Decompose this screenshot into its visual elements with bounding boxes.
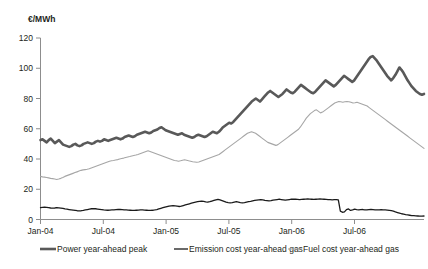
x-tick-label-Jan-04: Jan-04 [28, 226, 54, 236]
y-tick-label-100: 100 [19, 63, 33, 73]
legend-label-2: Fuel cost year-ahead gas [303, 244, 399, 254]
y-tick-label-120: 120 [19, 33, 33, 43]
series-line-power-year-ahead-peak [41, 56, 425, 147]
y-axis-unit-label: €/MWh [28, 14, 55, 24]
y-tick-label-60: 60 [24, 124, 34, 134]
price-chart: €/MWh 020406080100120 Jan-04Jul-04Jan-05… [0, 0, 428, 269]
chart-canvas: €/MWh 020406080100120 Jan-04Jul-04Jan-05… [0, 0, 428, 269]
series-line-emission-cost-year-ahead-gas [41, 199, 425, 216]
series-group [41, 56, 425, 216]
y-tick-label-20: 20 [24, 184, 34, 194]
y-tick-label-0: 0 [28, 215, 33, 225]
y-tick-label-40: 40 [24, 154, 34, 164]
x-tick-label-Jul-06: Jul-06 [343, 226, 366, 236]
legend-label-0: Power year-ahead peak [57, 244, 148, 254]
legend-label-1: Emission cost year-ahead gas [189, 244, 303, 254]
x-tick-label-Jul-05: Jul-05 [217, 226, 240, 236]
y-axis-ticks: 020406080100120 [19, 33, 41, 225]
x-axis-ticks: Jan-04Jul-04Jan-05Jul-05Jan-06Jul-06 [28, 220, 367, 237]
x-tick-label-Jan-06: Jan-06 [279, 226, 305, 236]
x-tick-label-Jan-05: Jan-05 [153, 226, 179, 236]
y-tick-label-80: 80 [24, 94, 34, 104]
chart-legend: Power year-ahead peakEmission cost year-… [40, 244, 399, 254]
x-tick-label-Jul-04: Jul-04 [92, 226, 115, 236]
